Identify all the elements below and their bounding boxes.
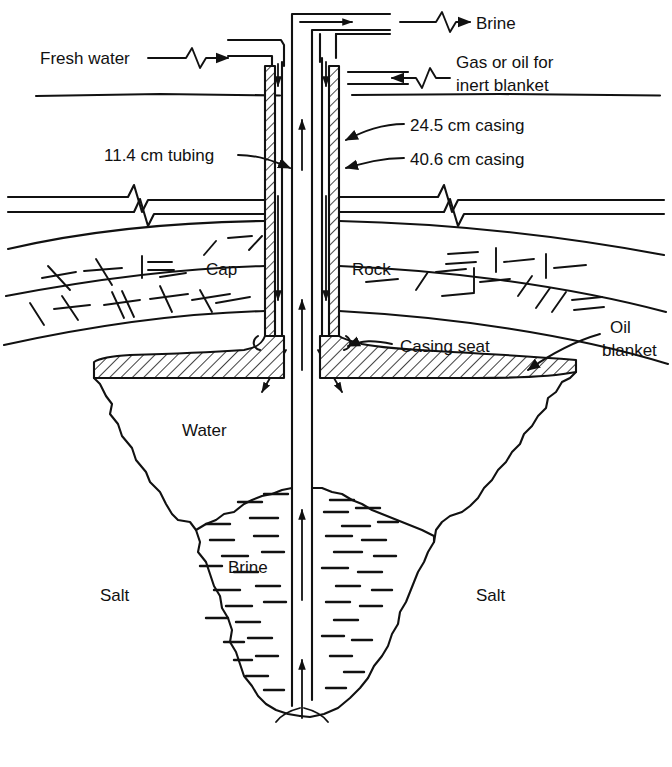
label-salt-left: Salt xyxy=(100,586,130,605)
salt-cavern-outline xyxy=(94,372,576,717)
solution-mining-well-diagram: Fresh water Brine Gas or oil for inert b… xyxy=(0,0,672,767)
ground-surface-line xyxy=(36,94,660,96)
brine-level-surface xyxy=(196,488,434,542)
brine-texture xyxy=(200,494,398,690)
label-brine-out: Brine xyxy=(476,14,516,33)
diagram-canvas: Fresh water Brine Gas or oil for inert b… xyxy=(0,0,672,767)
label-casing-seat: Casing seat xyxy=(400,337,490,356)
label-fresh-water: Fresh water xyxy=(40,49,130,68)
label-gas-or-oil-line1: Gas or oil for xyxy=(456,53,554,72)
label-salt-right: Salt xyxy=(476,586,506,605)
outer-casing-40-6cm xyxy=(265,66,339,336)
label-outer-casing: 40.6 cm casing xyxy=(410,150,524,169)
label-blanket: blanket xyxy=(602,341,657,360)
label-oil: Oil xyxy=(610,318,631,337)
label-cap: Cap xyxy=(206,260,237,279)
label-inert-blanket: inert blanket xyxy=(456,76,549,95)
rock-texture xyxy=(366,248,604,312)
brine-riser-pipe xyxy=(292,14,390,60)
label-brine-cavern: Brine xyxy=(228,558,268,577)
inner-casing-24-5cm xyxy=(282,58,322,336)
label-tubing: 11.4 cm tubing xyxy=(104,146,214,165)
label-rock: Rock xyxy=(352,260,391,279)
label-water: Water xyxy=(182,421,227,440)
label-inner-casing: 24.5 cm casing xyxy=(410,116,524,135)
casing-seat-and-oil-blanket xyxy=(94,336,576,378)
